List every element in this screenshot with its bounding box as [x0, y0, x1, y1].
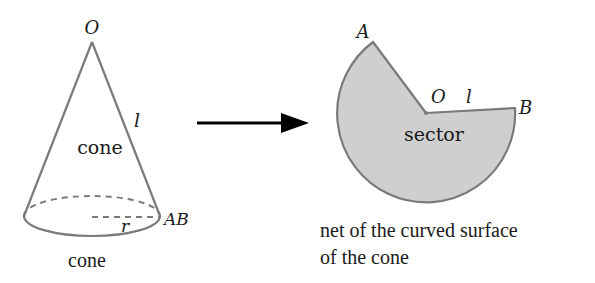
sector-body-label: sector: [404, 123, 465, 145]
sector-figure: A O l B sector: [337, 21, 532, 202]
cone-base-back-dashed: [24, 196, 160, 216]
sector-caption-line2: of the cone: [320, 245, 409, 269]
cone-right-edge: [92, 42, 160, 216]
cone-base-point-label: AB: [162, 209, 189, 229]
sector-point-a-label: A: [355, 21, 370, 42]
sector-radius-label: l: [466, 86, 472, 107]
cone-radius-label: r: [121, 216, 130, 236]
sector-center-point: [424, 111, 428, 115]
arrow-icon: [197, 113, 309, 133]
sector-point-b-label: B: [518, 97, 532, 118]
sector-center-label: O: [431, 86, 446, 107]
cone-caption: cone: [68, 248, 106, 272]
cone-left-edge: [24, 42, 92, 216]
cone-body-label: cone: [77, 136, 123, 158]
cone-base-front: [24, 216, 160, 236]
cone-figure: O l cone r AB: [24, 17, 189, 236]
cone-slant-label: l: [134, 109, 140, 131]
cone-apex-label: O: [85, 17, 100, 38]
sector-caption-line1: net of the curved surface: [320, 218, 518, 242]
